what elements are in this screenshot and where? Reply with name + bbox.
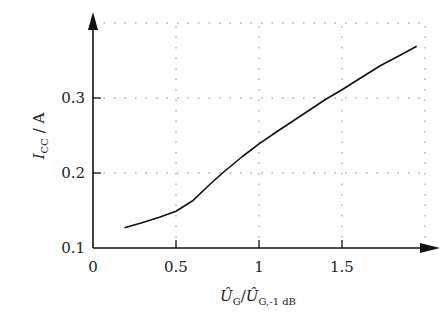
y-axis-ticks: 0.10.20.3 [61, 89, 101, 257]
axes [88, 12, 440, 253]
x-tick-label: 1 [254, 258, 264, 276]
x-tick-label: 0.5 [164, 258, 188, 276]
y-axis-arrow-icon [88, 12, 98, 30]
line-chart: 00.511.5 0.10.20.3 ÛG/ÛG,-1 dB ICC / A [0, 0, 448, 323]
x-axis-label: ÛG/ÛG,-1 dB [220, 287, 296, 307]
grid-lines [93, 23, 425, 248]
x-tick-label: 0 [88, 258, 98, 276]
y-tick-label: 0.1 [61, 239, 85, 257]
y-tick-label: 0.3 [61, 89, 85, 107]
x-tick-label: 1.5 [330, 258, 354, 276]
data-line [125, 46, 417, 228]
x-axis-arrow-icon [420, 243, 440, 253]
y-axis-label: ICC / A [30, 113, 50, 161]
x-axis-ticks: 00.511.5 [88, 240, 354, 276]
y-tick-label: 0.2 [61, 164, 85, 182]
